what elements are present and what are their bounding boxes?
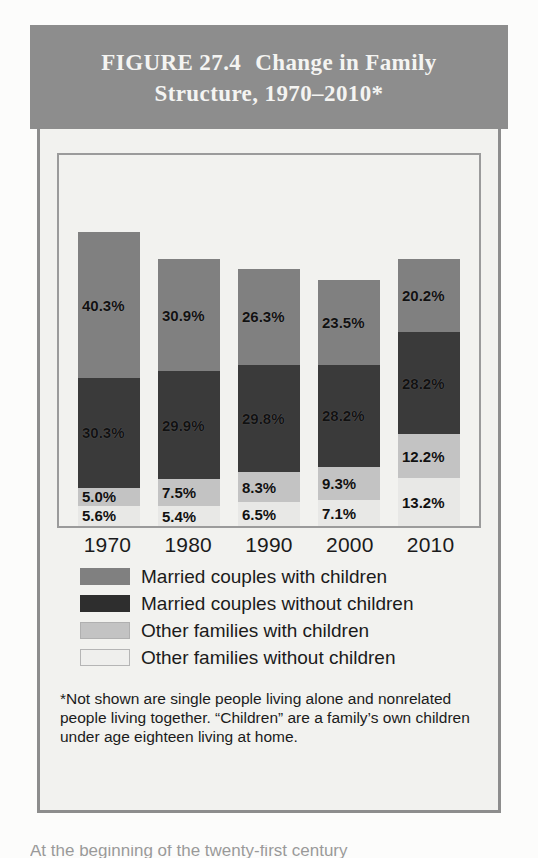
legend-label: Other families with children	[141, 620, 369, 642]
bar-segment-value-label: 29.8%	[238, 410, 285, 427]
bar-segment: 29.9%	[158, 371, 220, 479]
bar-segment-value-label: 13.2%	[398, 494, 445, 511]
bar-segment: 6.5%	[238, 502, 300, 526]
bar-segment-value-label: 23.5%	[318, 314, 365, 331]
figure-title: FIGURE 27.4Change in Family Structure, 1…	[30, 47, 508, 109]
bar-segment-value-label: 28.2%	[318, 407, 365, 424]
bar-segment-value-label: 20.2%	[398, 287, 445, 304]
figure-number: FIGURE 27.4	[101, 50, 241, 75]
bar-segment: 13.2%	[398, 478, 460, 526]
stacked-bar-group: 40.3%30.3%5.0%5.6%30.9%29.9%7.5%5.4%26.3…	[59, 155, 479, 526]
bar-column-1980: 30.9%29.9%7.5%5.4%	[158, 155, 220, 526]
legend-item-married-without-children: Married couples without children	[80, 591, 470, 616]
bar-segment-value-label: 30.3%	[78, 424, 125, 441]
bar-segment: 20.2%	[398, 259, 460, 332]
x-axis-label-1970: 1970	[76, 533, 138, 557]
bar-segment-value-label: 29.9%	[158, 417, 205, 434]
bar-column-2010: 20.2%28.2%12.2%13.2%	[398, 155, 460, 526]
bar-segment-value-label: 8.3%	[238, 479, 276, 496]
x-axis-label-1980: 1980	[157, 533, 219, 557]
bar-column-2000: 23.5%28.2%9.3%7.1%	[318, 155, 380, 526]
bar-segment: 28.2%	[318, 365, 380, 467]
legend-item-married-with-children: Married couples with children	[80, 564, 470, 589]
bar-segment-value-label: 5.0%	[78, 488, 116, 505]
legend-item-other-without-children: Other families without children	[80, 645, 470, 670]
chart-plot-area: 40.3%30.3%5.0%5.6%30.9%29.9%7.5%5.4%26.3…	[57, 153, 481, 528]
bar-segment: 8.3%	[238, 472, 300, 502]
bar-segment-value-label: 5.4%	[158, 508, 196, 525]
bar-segment: 29.8%	[238, 365, 300, 473]
figure-title-line1: Change in Family	[255, 50, 436, 75]
bar-segment: 7.1%	[318, 500, 380, 526]
x-axis-label-2010: 2010	[400, 533, 462, 557]
legend-item-other-with-children: Other families with children	[80, 618, 470, 643]
figure-container: FIGURE 27.4Change in Family Structure, 1…	[30, 25, 508, 815]
bar-column-1970: 40.3%30.3%5.0%5.6%	[78, 155, 140, 526]
chart-legend: Married couples with children Married co…	[80, 564, 470, 672]
legend-swatch-icon	[80, 622, 130, 639]
x-axis-tick-labels: 19701980199020002010	[57, 530, 481, 560]
bar-segment: 5.4%	[158, 506, 220, 526]
bar-segment: 12.2%	[398, 434, 460, 478]
bar-segment: 7.5%	[158, 479, 220, 506]
bar-segment-value-label: 40.3%	[78, 297, 125, 314]
bar-segment: 28.2%	[398, 332, 460, 434]
bar-segment-value-label: 12.2%	[398, 448, 445, 465]
bar-segment-value-label: 26.3%	[238, 308, 285, 325]
bar-segment-value-label: 9.3%	[318, 475, 356, 492]
bar-segment-value-label: 6.5%	[238, 506, 276, 523]
legend-swatch-icon	[80, 568, 130, 585]
x-axis-label-1990: 1990	[238, 533, 300, 557]
bar-segment: 30.9%	[158, 259, 220, 371]
bar-segment: 30.3%	[78, 378, 140, 488]
legend-label: Other families without children	[141, 647, 396, 669]
legend-swatch-icon	[80, 595, 130, 612]
page-body-text-line: At the beginning of the twenty-first cen…	[30, 845, 500, 858]
bar-segment: 5.6%	[78, 506, 140, 526]
bar-segment: 23.5%	[318, 280, 380, 365]
legend-label: Married couples with children	[141, 566, 387, 588]
bar-segment: 9.3%	[318, 467, 380, 501]
x-axis-label-2000: 2000	[319, 533, 381, 557]
bar-segment: 26.3%	[238, 269, 300, 364]
bar-segment-value-label: 7.1%	[318, 505, 356, 522]
bar-segment-value-label: 7.5%	[158, 484, 196, 501]
figure-footnote: *Not shown are single people living alon…	[60, 689, 480, 746]
bar-segment-value-label: 30.9%	[158, 307, 205, 324]
bar-column-1990: 26.3%29.8%8.3%6.5%	[238, 155, 300, 526]
bar-segment: 40.3%	[78, 232, 140, 378]
legend-label: Married couples without children	[141, 593, 413, 615]
bar-segment-value-label: 5.6%	[78, 507, 116, 524]
bar-segment: 5.0%	[78, 488, 140, 506]
bar-segment-value-label: 28.2%	[398, 375, 445, 392]
figure-body-panel: 40.3%30.3%5.0%5.6%30.9%29.9%7.5%5.4%26.3…	[37, 126, 501, 813]
legend-swatch-icon	[80, 649, 130, 666]
page-body-text-cutoff: At the beginning of the twenty-first cen…	[30, 845, 500, 858]
figure-title-line2: Structure, 1970–2010*	[30, 78, 508, 109]
